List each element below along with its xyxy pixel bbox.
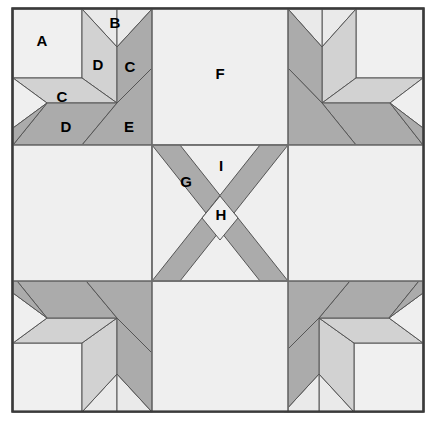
patch-A-corner-square <box>356 9 423 78</box>
quilt-diagram-stage: A B D C C D E F G I H <box>0 0 436 425</box>
patch-bottom-center-square <box>152 281 288 412</box>
block-top-right <box>288 9 423 145</box>
piece-label-I: I <box>219 157 223 174</box>
piece-label-A: A <box>37 32 48 49</box>
piece-label-C-lower: C <box>57 88 68 105</box>
piece-label-G: G <box>180 173 192 190</box>
patch-middle-left-square <box>13 145 152 281</box>
block-bottom-left <box>13 276 152 412</box>
block-bottom-right <box>284 276 423 412</box>
piece-label-B: B <box>110 14 121 31</box>
patch-A-corner-square <box>354 343 423 412</box>
piece-label-F: F <box>215 65 224 82</box>
quilt-block-diagram: A B D C C D E F G I H <box>0 0 436 425</box>
piece-label-D-lower: D <box>61 118 72 135</box>
piece-label-D-upper: D <box>93 56 104 73</box>
patch-middle-right-square <box>288 145 423 281</box>
piece-label-H: H <box>216 206 227 223</box>
piece-label-C-upper: C <box>125 58 136 75</box>
patch-A-corner-square <box>13 343 82 412</box>
patch-A-corner-square <box>13 9 82 78</box>
piece-label-E: E <box>124 118 134 135</box>
